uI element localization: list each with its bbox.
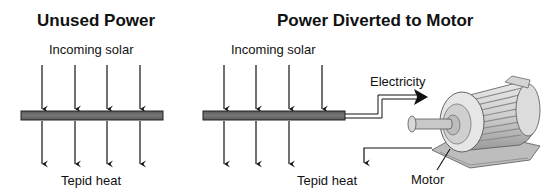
diagram-canvas: [0, 0, 557, 195]
motor-illustration: [408, 76, 540, 168]
motor-heat-arrow: [364, 148, 432, 163]
right-outgoing-arrows: [224, 121, 289, 164]
right-incoming-arrows: [224, 65, 322, 109]
electricity-wire: [345, 95, 416, 118]
left-incoming-arrows: [42, 65, 140, 109]
electricity-arrowhead-icon: [414, 89, 428, 105]
left-solar-panel-bar: [21, 111, 163, 120]
right-solar-panel-bar: [203, 111, 345, 120]
left-outgoing-arrows: [42, 121, 140, 164]
